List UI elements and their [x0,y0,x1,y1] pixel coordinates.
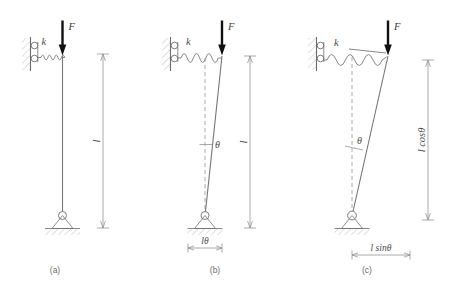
spring-label-a: k [42,36,47,47]
pin-support-a [45,212,80,235]
roller-lower-b [171,55,178,62]
angle-label-b: θ [215,139,220,150]
pin-support-b [188,212,223,235]
length-label-a: l [91,139,102,142]
ground-hatching-c [335,229,370,235]
panel-caption-b: (b) [210,265,221,275]
figure-root: k F l [0,0,452,295]
angle-label-c: θ [357,135,362,146]
base-dimension-label-c: l sinθ [371,243,392,253]
roller-upper-c [317,42,324,49]
panel-a: k F l [22,21,109,276]
length-label-c: l cosθ [416,128,427,153]
wall-support-a [22,37,38,71]
roller-lower-c [317,55,324,62]
spring-c [324,49,387,66]
roller-upper-a [31,42,38,49]
ground-hatching-a [45,229,80,235]
spring-top-guide-c [349,49,386,53]
spring-a [38,55,65,60]
pin-support-c [335,211,370,235]
diagram-canvas: k F l [0,0,452,295]
rod-b [205,56,222,216]
panel-c: k F θ [308,21,434,276]
force-label-c: F [393,21,401,32]
force-label-b: F [227,21,235,32]
panel-caption-a: (a) [50,265,61,275]
force-label-a: F [68,21,76,32]
spring-label-b: k [186,36,191,47]
wall-hatching-b [162,38,170,70]
wall-support-b [162,37,178,71]
spring-b [178,54,222,63]
panel-b: k F θ [162,21,256,276]
roller-upper-b [171,42,178,49]
force-arrow-a [59,21,67,56]
force-arrow-b [218,21,226,56]
wall-support-c [308,37,324,71]
wall-hatching-a [22,38,30,70]
roller-lower-a [31,55,38,62]
force-arrow-c [384,21,392,56]
length-label-b: l [238,140,249,143]
base-dimension-label-b: lθ [201,236,209,246]
ground-hatching-b [188,229,223,235]
angle-indicator-c [345,146,363,150]
spring-label-c: k [334,37,339,48]
panel-caption-c: (c) [362,265,372,275]
wall-hatching-c [308,38,316,70]
